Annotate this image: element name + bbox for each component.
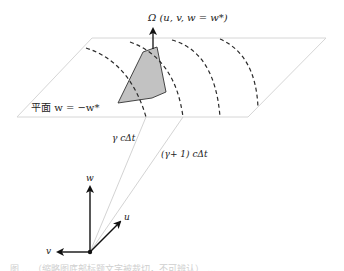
plane-label: 平面 w = −w* — [31, 103, 99, 113]
axis-u-label: u — [124, 213, 130, 222]
axis-v-label: v — [46, 247, 51, 256]
wavefront-arc-4 — [220, 39, 258, 108]
axis-w-label: w — [86, 174, 94, 183]
diagram-svg — [0, 0, 344, 271]
ray-gamma-plus-1-c-dt — [90, 117, 183, 252]
omega-region — [118, 47, 166, 103]
distance-label-gamma: γ cΔt — [112, 134, 135, 143]
figure-canvas: Ω (u, v, w = w*) 平面 w = −w* γ cΔt (γ+ 1)… — [0, 0, 344, 271]
axis-u-arrow — [90, 222, 120, 252]
origin-point — [88, 250, 92, 254]
omega-label: Ω (u, v, w = w*) — [148, 13, 228, 23]
figure-caption: 图 ... （缩略图底部标题文字被裁切，不可辨认） ... — [10, 262, 340, 271]
distance-label-gamma-plus-1: (γ+ 1) cΔt — [161, 150, 208, 159]
wavefront-arc-3 — [172, 40, 220, 117]
